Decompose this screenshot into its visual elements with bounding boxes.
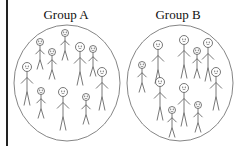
eye-icon — [38, 41, 39, 42]
right-leg — [80, 72, 83, 86]
head-icon — [38, 88, 45, 95]
stick-figure — [178, 84, 190, 127]
stick-figure — [154, 78, 166, 121]
right-leg — [63, 117, 66, 131]
eye-icon — [39, 90, 40, 91]
right-leg — [41, 109, 44, 119]
left-arm — [89, 57, 94, 62]
eye-icon — [173, 109, 174, 110]
left-leg — [195, 123, 198, 133]
left-arm — [37, 99, 42, 104]
left-leg — [77, 72, 80, 86]
right-arm — [41, 99, 46, 104]
left-arm — [178, 99, 184, 105]
head-icon — [194, 48, 201, 55]
left-leg — [99, 97, 102, 111]
head-icon — [49, 49, 56, 56]
eye-icon — [84, 96, 85, 97]
right-arm — [184, 99, 190, 105]
head-icon — [180, 36, 189, 45]
head-icon — [204, 39, 213, 48]
stick-figure — [194, 102, 203, 133]
left-leg — [213, 97, 216, 111]
stick-figure — [210, 68, 222, 111]
eye-icon — [161, 81, 162, 82]
eye-icon — [41, 41, 42, 42]
right-arm — [184, 51, 190, 57]
left-leg — [62, 51, 65, 61]
right-arm — [160, 93, 166, 99]
stick-figure — [82, 94, 91, 125]
right-leg — [208, 68, 211, 82]
stick-figure — [36, 39, 45, 70]
left-leg — [205, 68, 208, 82]
head-icon — [83, 94, 90, 101]
head-icon — [139, 62, 146, 69]
right-arm — [80, 58, 86, 64]
left-arm — [82, 105, 87, 110]
left-leg — [49, 70, 52, 80]
right-leg — [216, 97, 219, 111]
eye-icon — [61, 91, 62, 92]
left-leg — [90, 67, 93, 77]
eye-icon — [159, 44, 160, 45]
left-leg — [169, 128, 172, 138]
eye-icon — [81, 46, 82, 47]
head-icon — [154, 41, 163, 50]
right-arm — [93, 57, 98, 62]
stick-figure — [168, 107, 177, 138]
right-arm — [208, 54, 214, 60]
group-a — [14, 25, 120, 141]
left-arm — [48, 60, 53, 64]
eye-icon — [42, 90, 43, 91]
head-icon — [37, 39, 44, 46]
left-leg — [181, 65, 184, 79]
right-arm — [86, 105, 91, 110]
groups-diagram — [0, 0, 240, 150]
right-arm — [27, 78, 33, 84]
left-arm — [154, 93, 160, 99]
left-leg — [37, 60, 40, 70]
eye-icon — [140, 64, 141, 65]
eye-icon — [100, 71, 101, 72]
left-arm — [193, 59, 198, 64]
eye-icon — [170, 109, 171, 110]
right-leg — [86, 115, 89, 125]
eye-icon — [182, 39, 183, 40]
eye-icon — [94, 48, 95, 49]
left-leg — [181, 113, 184, 127]
eye-icon — [28, 66, 29, 67]
head-icon — [62, 30, 69, 37]
eye-icon — [143, 64, 144, 65]
left-leg — [24, 92, 27, 106]
right-leg — [197, 69, 200, 79]
right-leg — [40, 60, 43, 70]
eye-icon — [64, 91, 65, 92]
head-icon — [98, 68, 107, 77]
stick-figure — [152, 41, 164, 84]
stick-figure — [57, 88, 69, 131]
right-arm — [198, 113, 203, 118]
left-arm — [194, 113, 199, 118]
right-leg — [27, 92, 30, 106]
left-arm — [152, 56, 158, 62]
left-arm — [74, 58, 80, 64]
eye-icon — [78, 46, 79, 47]
left-arm — [57, 103, 63, 109]
eye-icon — [214, 71, 215, 72]
right-arm — [102, 83, 108, 89]
stick-figure — [61, 30, 70, 61]
eye-icon — [209, 42, 210, 43]
right-arm — [216, 83, 222, 89]
head-icon — [195, 102, 202, 109]
head-icon — [169, 107, 176, 114]
eye-icon — [195, 50, 196, 51]
left-arm — [96, 83, 102, 89]
eye-icon — [185, 39, 186, 40]
eye-icon — [185, 87, 186, 88]
eye-icon — [198, 50, 199, 51]
right-arm — [52, 60, 57, 64]
head-icon — [156, 78, 165, 87]
right-arm — [65, 41, 70, 46]
right-arm — [172, 118, 177, 123]
